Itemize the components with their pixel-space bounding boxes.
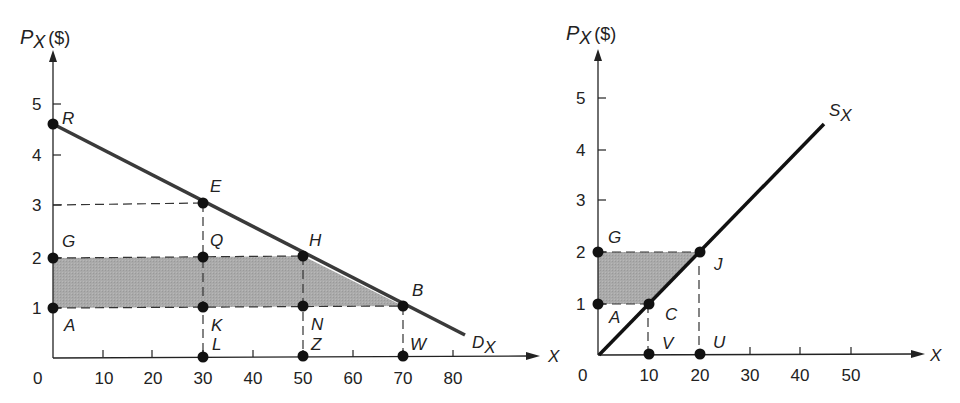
point-V	[644, 349, 655, 360]
svg-text:G: G	[608, 228, 621, 247]
svg-text:Z: Z	[310, 335, 322, 354]
point-G	[593, 247, 604, 258]
svg-text:Q: Q	[210, 231, 223, 250]
left-y-axis-arrow	[49, 50, 57, 62]
svg-text:W: W	[410, 335, 428, 354]
point-A	[593, 299, 604, 310]
left-x-tick-labels: 10 20 30 40 50 60 70 80	[95, 369, 463, 388]
svg-text:V: V	[662, 334, 675, 353]
point-L	[198, 352, 209, 363]
svg-text:10: 10	[640, 366, 659, 385]
svg-text:70: 70	[394, 369, 413, 388]
svg-text:30: 30	[741, 366, 760, 385]
svg-text:A: A	[63, 316, 75, 335]
left-x-axis-title: X	[547, 347, 560, 366]
right-y-axis-arrow	[594, 49, 602, 61]
left-x-axis-arrow	[526, 352, 540, 360]
point-W	[398, 351, 409, 362]
right-origin-label: 0	[578, 366, 587, 385]
left-ticks	[53, 104, 453, 357]
svg-text:3: 3	[32, 196, 41, 215]
right-x-axis-arrow	[911, 350, 925, 358]
svg-text:80: 80	[444, 369, 463, 388]
svg-text:10: 10	[95, 369, 114, 388]
left-axes	[53, 58, 530, 358]
svg-text:2: 2	[576, 243, 585, 262]
svg-text:4: 4	[576, 141, 585, 160]
svg-text:20: 20	[691, 366, 710, 385]
svg-text:G: G	[62, 232, 75, 251]
svg-text:H: H	[309, 231, 322, 250]
right-y-tick-labels: 5 4 3 2 1	[576, 89, 585, 314]
demand-chart: PX($) X 0 5 4 3 2 1 10 20 30 40 50 60 70…	[20, 26, 560, 388]
consumer-surplus-shaded-area	[53, 256, 403, 308]
point-R	[48, 119, 59, 130]
left-point-labels: R E H B G A Q K N L Z W	[62, 109, 428, 354]
demand-curve-label: DX	[472, 333, 496, 357]
point-J	[695, 247, 706, 258]
right-x-axis-title: X	[929, 346, 942, 365]
svg-text:R: R	[62, 109, 74, 128]
point-Z	[298, 351, 309, 362]
right-x-tick-labels: 10 20 30 40 50	[640, 366, 861, 385]
right-y-axis-title: PX($)	[566, 22, 616, 48]
left-origin-label: 0	[33, 369, 42, 388]
supply-chart: PX($) X 0 5 4 3 2 1 10 20 30 40 50 G J A…	[566, 22, 942, 385]
supply-curve	[599, 124, 824, 355]
point-N	[298, 301, 309, 312]
svg-text:60: 60	[344, 369, 363, 388]
point-G	[48, 253, 59, 264]
point-K	[198, 302, 209, 313]
svg-text:4: 4	[32, 146, 41, 165]
svg-text:2: 2	[32, 249, 41, 268]
svg-text:J: J	[713, 255, 723, 274]
producer-surplus-shaded-area	[598, 252, 700, 304]
left-points	[48, 119, 409, 363]
svg-text:20: 20	[144, 369, 163, 388]
point-E	[198, 198, 209, 209]
svg-text:5: 5	[32, 95, 41, 114]
svg-text:C: C	[665, 305, 678, 324]
svg-text:30: 30	[194, 369, 213, 388]
svg-text:50: 50	[842, 366, 861, 385]
left-y-axis-title: PX($)	[20, 26, 70, 52]
svg-text:40: 40	[791, 366, 810, 385]
supply-curve-label: SX	[829, 101, 852, 125]
point-U	[695, 349, 706, 360]
left-y-tick-labels: 5 4 3 2 1	[32, 95, 41, 318]
svg-text:40: 40	[244, 369, 263, 388]
svg-text:U: U	[713, 333, 726, 352]
point-B	[398, 301, 409, 312]
point-C	[644, 299, 655, 310]
svg-text:K: K	[211, 316, 223, 335]
svg-text:L: L	[212, 335, 221, 354]
point-Q	[198, 252, 209, 263]
point-A	[48, 303, 59, 314]
svg-text:1: 1	[32, 299, 41, 318]
svg-text:B: B	[412, 281, 423, 300]
svg-text:3: 3	[576, 191, 585, 210]
svg-text:5: 5	[576, 89, 585, 108]
figure-svg: PX($) X 0 5 4 3 2 1 10 20 30 40 50 60 70…	[0, 0, 960, 403]
svg-text:A: A	[608, 308, 620, 327]
svg-text:1: 1	[576, 295, 585, 314]
right-axes	[598, 57, 915, 355]
figure: PX($) X 0 5 4 3 2 1 10 20 30 40 50 60 70…	[0, 0, 960, 403]
svg-text:50: 50	[294, 369, 313, 388]
point-H	[298, 251, 309, 262]
svg-text:E: E	[210, 177, 222, 196]
svg-text:N: N	[311, 315, 324, 334]
